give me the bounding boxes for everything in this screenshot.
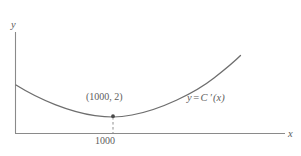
minimum-point-marker	[111, 114, 115, 118]
marginal-cost-curve	[16, 56, 241, 118]
curve-equation-function: C	[201, 92, 208, 103]
graph-figure: y x (1000, 2) 1000 y=C ′(x)	[0, 0, 301, 156]
minimum-point-label: (1000, 2)	[86, 92, 123, 102]
x-tick-label-1000: 1000	[95, 136, 115, 146]
graph-canvas	[0, 0, 301, 156]
curve-equation-lhs: y	[187, 92, 192, 103]
y-axis-label: y	[11, 20, 16, 31]
x-axis-label: x	[288, 129, 293, 140]
curve-equation-argument: (x)	[213, 92, 225, 103]
curve-equation-equals: =	[192, 92, 201, 103]
axes-group	[15, 32, 285, 134]
curve-equation-label: y=C ′(x)	[187, 93, 225, 104]
